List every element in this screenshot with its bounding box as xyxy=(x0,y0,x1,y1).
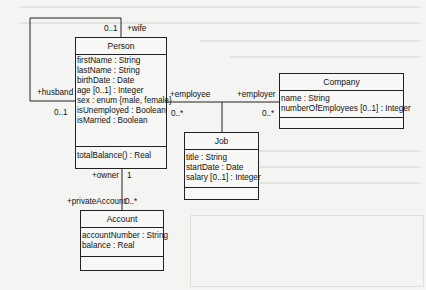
owner-role: +owner xyxy=(92,171,119,181)
employer-multiplicity: 0..* xyxy=(262,109,274,119)
operation-list xyxy=(280,118,403,120)
attribute: age [0..1] : Integer xyxy=(77,86,165,96)
class-company[interactable]: Company name : String numberOfEmployees … xyxy=(279,73,404,129)
attribute-list: name : String numberOfEmployees [0..1] :… xyxy=(280,91,403,118)
employer-role: +employer xyxy=(237,90,275,100)
husband-multiplicity: 0..1 xyxy=(54,108,68,118)
attribute: sex : enum {male, female} xyxy=(77,96,165,106)
class-name: Job xyxy=(185,133,258,150)
account-multiplicity: 0..* xyxy=(125,197,137,207)
owner-multiplicity: 1 xyxy=(127,171,132,181)
operation: totalBalance() : Real xyxy=(77,151,165,161)
class-person[interactable]: Person firstName : String lastName : Str… xyxy=(75,37,167,169)
operation-list xyxy=(81,257,163,259)
employee-role: +employee xyxy=(170,90,210,100)
attribute: name : String xyxy=(281,94,402,104)
attribute: isMarried : Boolean xyxy=(77,116,165,126)
attribute: title : String xyxy=(186,153,257,163)
attribute: isUnemployed : Boolean xyxy=(77,106,165,116)
attribute-list: title : String startDate : Date salary [… xyxy=(185,150,258,188)
attribute: accountNumber : String xyxy=(82,231,162,241)
private-account-role: +privateAccount xyxy=(67,197,126,207)
class-job[interactable]: Job title : String startDate : Date sala… xyxy=(184,132,259,200)
wife-multiplicity: 0..1 xyxy=(104,24,118,34)
attribute: balance : Real xyxy=(82,241,162,251)
wife-role: +wife xyxy=(127,24,146,34)
class-name: Account xyxy=(81,211,163,228)
attribute: birthDate : Date xyxy=(77,76,165,86)
operation-list xyxy=(185,188,258,190)
class-name: Company xyxy=(280,74,403,91)
employee-multiplicity: 0..* xyxy=(171,109,183,119)
attribute: firstName : String xyxy=(77,56,165,66)
husband-role: +husband xyxy=(37,88,73,98)
class-account[interactable]: Account accountNumber : String balance :… xyxy=(80,210,164,271)
class-name: Person xyxy=(76,38,166,55)
attribute-list: accountNumber : String balance : Real xyxy=(81,228,163,257)
attribute: lastName : String xyxy=(77,66,165,76)
attribute: salary [0..1] : Integer xyxy=(186,173,257,183)
attribute: startDate : Date xyxy=(186,163,257,173)
attribute: numberOfEmployees [0..1] : Integer xyxy=(281,104,402,114)
attribute-list: firstName : String lastName : String bir… xyxy=(76,55,166,147)
operation-list: totalBalance() : Real xyxy=(76,147,166,162)
